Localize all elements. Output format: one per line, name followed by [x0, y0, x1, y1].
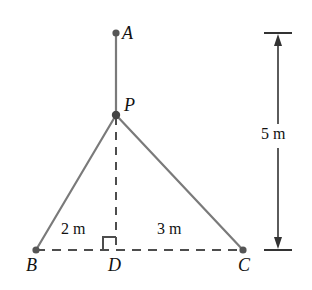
- measurement-label-dc: 3 m: [157, 221, 181, 237]
- right-angle-marker: [103, 237, 116, 250]
- geometry-figure: A P B D C 2 m 3 m 5 m: [0, 0, 312, 290]
- measurement-label-bd: 2 m: [61, 221, 85, 237]
- geometry-canvas: [0, 0, 312, 290]
- vertex-label-p: P: [124, 96, 135, 114]
- point-c: [239, 246, 246, 253]
- point-b: [32, 246, 39, 253]
- vertex-label-a: A: [122, 24, 133, 42]
- point-a: [112, 29, 119, 36]
- vertex-label-d: D: [108, 256, 121, 274]
- dimension-arrowhead-up: [274, 34, 282, 46]
- dimension-arrowhead-down: [274, 237, 282, 249]
- vertex-label-c: C: [238, 256, 250, 274]
- point-p: [112, 111, 120, 119]
- measurement-label-height: 5 m: [261, 126, 285, 142]
- vertex-label-b: B: [26, 256, 37, 274]
